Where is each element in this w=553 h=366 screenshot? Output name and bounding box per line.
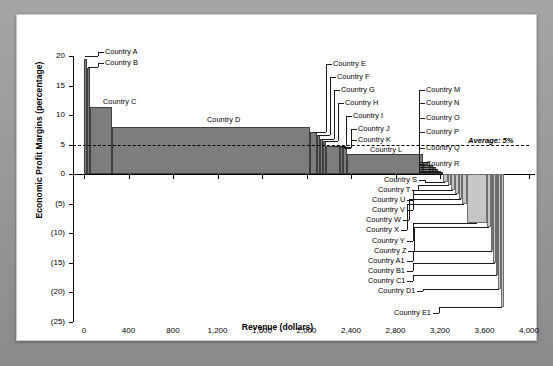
y-axis-tick-label: (20) — [31, 288, 65, 296]
leader-label-country-w — [409, 199, 461, 200]
bar-country-e1 — [501, 174, 504, 307]
leader-label-country-h — [338, 103, 339, 141]
label-country-q: Country Q — [426, 144, 460, 152]
x-axis-tick-label: 3,600 — [465, 326, 505, 335]
leader-label-country-z — [414, 227, 489, 228]
y-axis-tick-label: 10 — [31, 111, 65, 119]
y-axis-tick-label: (15) — [31, 259, 65, 267]
leader-label-country-b1 — [413, 263, 495, 264]
leader-label-country-f — [318, 135, 330, 136]
x-axis-tick-mark — [351, 175, 352, 179]
x-axis-tick-label: 400 — [109, 326, 149, 335]
x-axis-tick-label: 800 — [153, 326, 193, 335]
label-country-c: Country C — [103, 98, 136, 106]
average-line — [73, 145, 529, 146]
leader-label-country-v — [413, 194, 414, 210]
y-axis-tick-label: 0 — [31, 170, 65, 178]
leader-label-country-a — [85, 56, 98, 57]
leader-label-country-c1 — [407, 281, 413, 282]
bar-country-l — [347, 154, 424, 175]
y-axis-tick-label: 5 — [31, 141, 65, 149]
leader-label-country-d1 — [417, 291, 423, 292]
label-country-y: Country Y — [372, 237, 405, 245]
x-axis-tick-label: 3,200 — [420, 326, 460, 335]
chart-panel: Economic Profit Margins (percentage)Reve… — [16, 14, 537, 341]
leader-label-country-i — [346, 116, 347, 146]
leader-label-country-u — [413, 190, 453, 191]
label-country-b: Country B — [105, 59, 138, 67]
leader-label-country-f — [330, 77, 331, 135]
x-axis-tick-mark — [262, 175, 263, 179]
y-axis-tick-label: (5) — [31, 200, 65, 208]
x-axis-tick-mark — [440, 175, 441, 179]
x-axis-tick-mark — [307, 175, 308, 179]
leader-label-country-c1 — [413, 275, 497, 276]
leader-label-country-e1 — [433, 313, 439, 314]
label-country-k: Country K — [358, 136, 391, 144]
x-axis-tick-mark — [218, 175, 219, 179]
bar-country-d — [112, 127, 310, 174]
label-country-a1: Country A1 — [368, 257, 405, 265]
leader-label-country-g — [334, 90, 335, 139]
label-country-l: Country L — [370, 146, 402, 154]
x-axis-tick-label: 2,400 — [331, 326, 371, 335]
y-axis-tick-label: (25) — [31, 318, 65, 326]
average-label: Average: 5% — [468, 136, 514, 145]
leader-label-country-b1 — [407, 271, 413, 272]
label-country-c1: Country C1 — [368, 277, 405, 285]
bar-country-c — [90, 107, 112, 174]
leader-label-country-w — [409, 199, 410, 220]
leader-label-country-k — [351, 140, 352, 148]
leader-label-country-b1 — [413, 263, 414, 271]
leader-label-country-r — [419, 172, 442, 173]
leader-label-country-x — [407, 204, 408, 230]
y-axis-tick-label: 15 — [31, 82, 65, 90]
label-country-o: Country O — [426, 114, 460, 122]
label-country-j: Country J — [358, 125, 390, 133]
label-country-m: Country M — [426, 86, 460, 94]
x-axis-tick-label: 4,000 — [509, 326, 549, 335]
leader-label-country-a1 — [413, 251, 414, 261]
leader-label-country-y — [413, 223, 477, 224]
leader-label-country-b — [88, 67, 98, 68]
label-country-v: Country V — [372, 206, 405, 214]
chart-plot-area: Economic Profit Margins (percentage)Reve… — [17, 15, 538, 342]
label-country-d: Country D — [207, 116, 240, 124]
y-axis-tick-label: (10) — [31, 229, 65, 237]
label-country-h: Country H — [345, 99, 378, 107]
leader-label-country-a — [98, 52, 99, 56]
y-axis-tick-label: 20 — [31, 52, 65, 60]
leader-label-country-b — [98, 63, 99, 67]
bar-country-y — [467, 174, 487, 222]
leader-label-country-r — [419, 164, 420, 172]
x-axis-tick-label: 2,800 — [376, 326, 416, 335]
label-country-b1: Country B1 — [368, 267, 405, 275]
label-country-p: Country P — [426, 128, 459, 136]
leader-label-country-z — [414, 227, 415, 251]
screenshot-frame: Economic Profit Margins (percentage)Reve… — [0, 0, 553, 366]
label-country-g: Country G — [341, 86, 375, 94]
leader-label-country-k — [345, 148, 351, 149]
label-country-u: Country U — [372, 196, 405, 204]
label-country-e: Country E — [333, 60, 366, 68]
x-axis-tick-mark — [529, 175, 530, 179]
label-country-i: Country I — [353, 112, 383, 120]
x-axis-tick-mark — [129, 175, 130, 179]
bar-country-e — [310, 132, 317, 175]
leader-label-country-s — [425, 182, 445, 183]
bar-country-i — [326, 146, 340, 174]
leader-label-country-y — [407, 241, 413, 242]
label-country-f: Country F — [337, 73, 369, 81]
label-country-a: Country A — [105, 48, 137, 56]
label-country-n: Country N — [426, 99, 459, 107]
leader-label-country-a1 — [407, 261, 413, 262]
label-country-e1: Country E1 — [394, 309, 431, 317]
label-country-w: Country W — [366, 216, 401, 224]
x-axis-tick-label: 2,000 — [287, 326, 327, 335]
y-axis-tick-mark — [69, 322, 73, 323]
x-axis-tick-label: 1,200 — [198, 326, 238, 335]
x-axis-tick-mark — [84, 175, 85, 179]
leader-label-country-d1 — [423, 289, 499, 290]
label-country-x: Country X — [366, 226, 399, 234]
leader-label-country-v — [413, 194, 457, 195]
